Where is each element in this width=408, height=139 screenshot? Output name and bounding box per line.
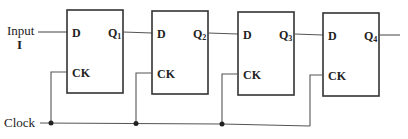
clock-bus bbox=[40, 123, 310, 126]
q2-to-d3-wire bbox=[208, 33, 238, 34]
flipflop-1-d-label: D bbox=[72, 26, 81, 40]
flipflop-4-box bbox=[323, 13, 379, 96]
flipflop-1-box bbox=[67, 10, 123, 93]
flipflop-2: D CK Q2 bbox=[152, 11, 208, 94]
flipflop-4: D CK Q4 bbox=[323, 13, 379, 96]
clock-junction-2 bbox=[134, 121, 139, 126]
flipflop-3-d-label: D bbox=[243, 28, 252, 42]
clock-label: Clock bbox=[4, 115, 36, 130]
flipflop-4-d-label: D bbox=[328, 29, 337, 43]
flipflop-1: D CK Q1 bbox=[67, 10, 123, 93]
flipflop-2-box bbox=[152, 11, 208, 94]
flipflop-2-ck-label: CK bbox=[157, 67, 176, 81]
flipflop-3-box bbox=[238, 12, 294, 95]
q3-to-d4-wire bbox=[294, 34, 323, 35]
clock-junction-1 bbox=[49, 121, 54, 126]
flipflop-1-ck-label: CK bbox=[72, 66, 91, 80]
flipflop-4-clock-wire bbox=[310, 75, 323, 126]
flipflop-3-clock-wire bbox=[222, 74, 238, 124]
input-symbol: I bbox=[17, 37, 22, 52]
flipflop-4-ck-label: CK bbox=[328, 69, 347, 83]
input-label: Input bbox=[7, 23, 35, 38]
flipflop-2-clock-wire bbox=[136, 73, 152, 123]
flipflop-2-d-label: D bbox=[157, 27, 166, 41]
flipflop-1-clock-wire bbox=[51, 72, 67, 123]
flipflop-3-ck-label: CK bbox=[243, 68, 262, 82]
flipflop-3: D CK Q3 bbox=[238, 12, 294, 95]
shift-register-diagram: Input I Clock D CK Q1 D CK Q2 D CK Q3 D … bbox=[0, 0, 408, 139]
clock-junction-3 bbox=[220, 122, 225, 127]
q1-to-d2-wire bbox=[123, 32, 152, 33]
